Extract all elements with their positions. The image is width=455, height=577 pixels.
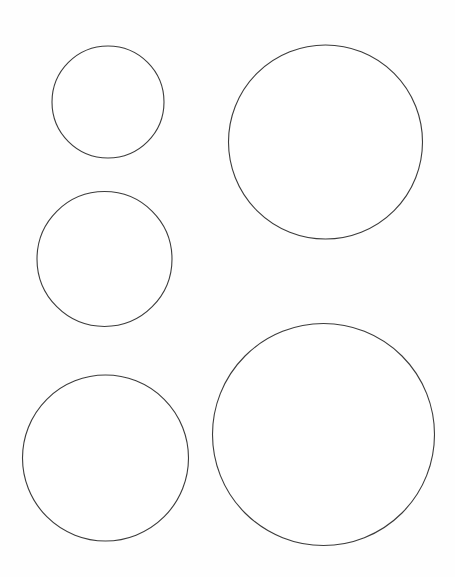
medium-large-circle-bottom-left — [23, 375, 189, 541]
page-canvas — [0, 0, 455, 577]
circle-template-sheet — [0, 0, 455, 577]
small-circle-top-left — [52, 46, 164, 158]
largest-circle-bottom-right — [213, 324, 435, 546]
medium-circle-middle-left — [37, 192, 172, 327]
large-circle-top-right — [229, 45, 423, 239]
